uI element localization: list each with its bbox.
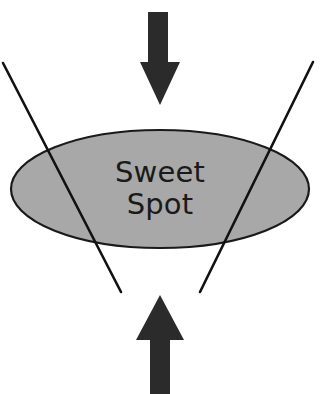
sweet-spot-diagram: Sweet Spot [0, 0, 321, 394]
sweet-spot-label-line-1: Sweet [115, 155, 205, 189]
sweet-spot-label-line-2: Spot [127, 187, 194, 221]
diagram-canvas: Sweet Spot [0, 0, 321, 394]
